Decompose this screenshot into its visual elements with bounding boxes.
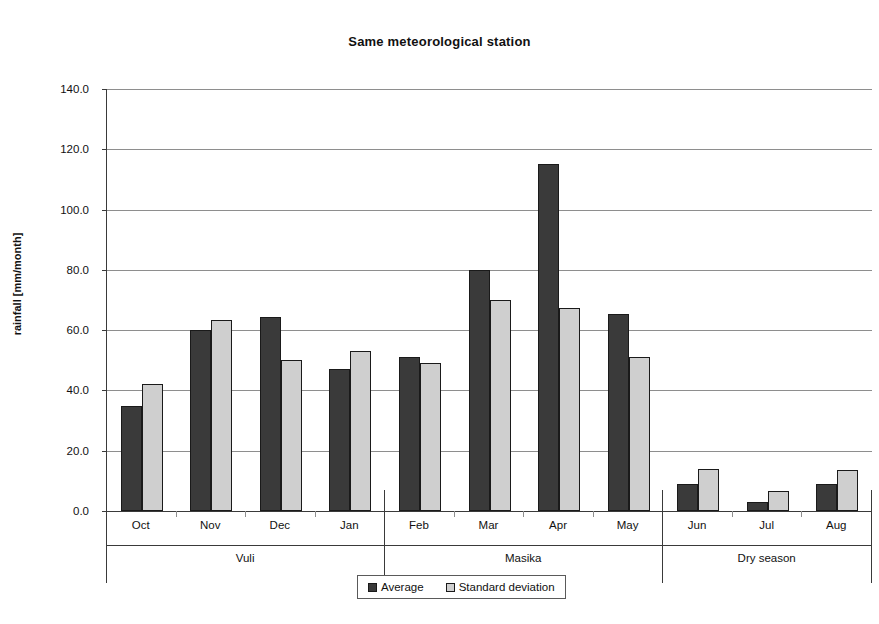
legend-item-avg: Average — [368, 581, 424, 593]
bar-average-nov — [190, 330, 211, 511]
y-tick-label: 140.0 — [19, 83, 89, 95]
month-tick — [801, 511, 802, 517]
gridline — [107, 270, 872, 271]
y-tick-mark — [102, 210, 107, 211]
y-tick-label: 80.0 — [19, 264, 89, 276]
legend-label: Standard deviation — [459, 581, 555, 593]
bar-average-dec — [260, 317, 281, 511]
y-tick-mark — [102, 451, 107, 452]
season-separator — [662, 490, 663, 583]
bar-stddev-nov — [211, 320, 232, 511]
y-tick-label: 120.0 — [19, 143, 89, 155]
month-label-jun: Jun — [662, 519, 732, 531]
bar-stddev-jul — [768, 491, 789, 511]
month-axis: OctNovDecJanFebMarAprMayJunJulAug — [106, 511, 871, 545]
y-tick-label: 60.0 — [19, 324, 89, 336]
bar-stddev-apr — [559, 308, 580, 511]
bar-average-aug — [816, 484, 837, 511]
chart-legend: AverageStandard deviation — [357, 575, 566, 599]
season-separator — [871, 490, 872, 583]
season-label-dry-season: Dry season — [662, 552, 871, 564]
month-label-apr: Apr — [523, 519, 593, 531]
bar-stddev-dec — [281, 360, 302, 511]
legend-swatch-avg-icon — [368, 583, 377, 592]
bar-average-mar — [469, 270, 490, 511]
month-tick — [176, 511, 177, 517]
month-label-oct: Oct — [106, 519, 176, 531]
y-tick-label: 20.0 — [19, 445, 89, 457]
bar-average-oct — [121, 406, 142, 512]
bar-average-jan — [329, 369, 350, 511]
gridline — [107, 89, 872, 90]
y-tick-label: 100.0 — [19, 204, 89, 216]
rainfall-bar-chart: Same meteorological station rainfall [mm… — [0, 0, 879, 624]
month-tick — [732, 511, 733, 517]
legend-label: Average — [381, 581, 424, 593]
bar-stddev-aug — [837, 470, 858, 511]
y-tick-mark — [102, 270, 107, 271]
bar-average-apr — [538, 164, 559, 511]
gridline — [107, 149, 872, 150]
bar-stddev-jan — [350, 351, 371, 511]
month-label-dec: Dec — [245, 519, 315, 531]
bar-stddev-mar — [490, 300, 511, 511]
bar-average-feb — [399, 357, 420, 511]
month-label-aug: Aug — [801, 519, 871, 531]
month-label-may: May — [593, 519, 663, 531]
y-tick-mark — [102, 149, 107, 150]
month-tick — [245, 511, 246, 517]
bar-stddev-jun — [698, 469, 719, 511]
gridline — [107, 210, 872, 211]
y-tick-label: 40.0 — [19, 384, 89, 396]
month-label-nov: Nov — [176, 519, 246, 531]
y-tick-mark — [102, 89, 107, 90]
y-tick-label: 0.0 — [19, 505, 89, 517]
month-label-feb: Feb — [384, 519, 454, 531]
y-tick-mark — [102, 390, 107, 391]
plot-area: 140.0120.0100.080.060.040.020.00.0 — [106, 89, 872, 511]
bar-average-may — [608, 314, 629, 511]
month-tick — [523, 511, 524, 517]
bar-stddev-oct — [142, 384, 163, 511]
month-label-jan: Jan — [315, 519, 385, 531]
season-axis-line — [106, 545, 871, 546]
legend-item-std: Standard deviation — [446, 581, 555, 593]
month-label-jul: Jul — [732, 519, 802, 531]
season-separator — [384, 490, 385, 583]
season-label-masika: Masika — [384, 552, 662, 564]
bar-stddev-feb — [420, 363, 441, 511]
month-tick — [454, 511, 455, 517]
season-separator — [106, 490, 107, 583]
month-label-mar: Mar — [454, 519, 524, 531]
season-label-vuli: Vuli — [106, 552, 384, 564]
bar-average-jun — [677, 484, 698, 511]
month-tick — [315, 511, 316, 517]
legend-swatch-std-icon — [446, 583, 455, 592]
month-tick — [593, 511, 594, 517]
y-tick-mark — [102, 330, 107, 331]
bar-average-jul — [747, 502, 768, 511]
y-axis-title: rainfall [mm/month] — [11, 204, 23, 364]
chart-title: Same meteorological station — [0, 34, 879, 49]
bar-stddev-may — [629, 357, 650, 511]
